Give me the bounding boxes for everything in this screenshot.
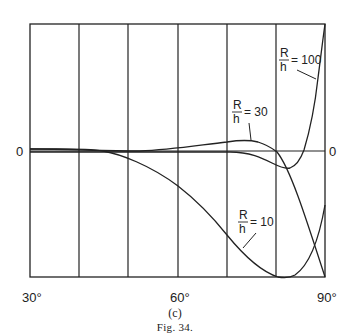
svg-text:= 100: = 100: [291, 53, 322, 67]
label-rh-100: R h = 100: [279, 46, 322, 79]
svg-text:R: R: [280, 46, 289, 60]
x-tick-90: 90°: [317, 290, 337, 305]
chart: R h = 100 R h = 30 R h = 10 0 0 30° 60° …: [0, 0, 351, 335]
svg-text:h: h: [239, 222, 246, 236]
label-rh-10: R h = 10: [238, 208, 274, 248]
svg-text:h: h: [280, 60, 287, 74]
y-tick-left-zero: 0: [16, 144, 23, 159]
svg-text:= 30: = 30: [244, 105, 268, 119]
y-tick-right-zero: 0: [329, 144, 336, 159]
label-rh-30: R h = 30: [232, 98, 268, 140]
x-tick-30: 30°: [22, 290, 42, 305]
svg-text:R: R: [233, 98, 242, 112]
subfigure-label: (c): [168, 306, 181, 320]
svg-text:h: h: [233, 112, 240, 126]
svg-text:R: R: [239, 208, 248, 222]
svg-text:= 10: = 10: [250, 215, 274, 229]
x-tick-60: 60°: [170, 290, 190, 305]
leader-line-rh-30: [249, 123, 251, 140]
leader-line-rh-100: [297, 70, 316, 79]
figure-caption: Fig. 34.: [157, 321, 193, 333]
